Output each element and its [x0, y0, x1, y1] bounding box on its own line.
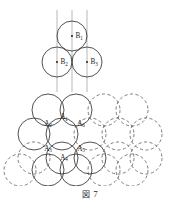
figure-caption: 図7	[0, 188, 180, 199]
caption-glyph: 図	[82, 190, 91, 199]
a-label-A6: A6	[77, 120, 85, 129]
circle-dashed	[130, 118, 162, 150]
b-label-B1: B1	[76, 32, 84, 41]
circle-dashed	[102, 118, 134, 150]
figure-container: B1B2B3 A1A2A6A3A5A4 図7	[0, 0, 180, 208]
b-label-B2: B2	[61, 58, 69, 67]
a-label-group: A1A2A6A3A5A4	[44, 113, 85, 162]
circle-dashed	[88, 94, 120, 126]
circle-dashed	[88, 154, 120, 186]
circle-dashed	[116, 154, 148, 186]
circle-dashed	[102, 142, 134, 174]
caption-number: 7	[93, 189, 98, 199]
center-dot	[86, 61, 88, 63]
a-label-A4: A4	[60, 154, 68, 163]
circle-dashed	[116, 94, 148, 126]
a-label-A2: A2	[44, 120, 52, 129]
center-dot	[71, 35, 73, 37]
a-label-A5: A5	[77, 145, 85, 154]
circle-dashed	[4, 154, 36, 186]
bottom-circle-group	[4, 94, 162, 186]
center-dot	[56, 61, 58, 63]
packing-diagram-svg: B1B2B3 A1A2A6A3A5A4	[0, 0, 180, 208]
b-label-B3: B3	[91, 58, 99, 67]
a-label-A1: A1	[60, 113, 68, 122]
circle-dashed	[130, 142, 162, 174]
